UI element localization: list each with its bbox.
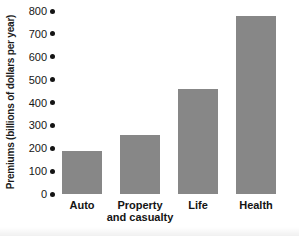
y-tick-label: 100: [29, 164, 47, 178]
bar-property: [120, 135, 160, 194]
y-tick-label: 600: [29, 50, 47, 64]
x-category-label-health: Health: [206, 200, 299, 212]
y-tick-dot-icon: [50, 31, 55, 36]
insurance-premiums-bar-chart: Premiums (billions of dollars per year) …: [0, 0, 299, 236]
y-tick-dot-icon: [50, 100, 55, 105]
y-tick-label: 0: [41, 187, 47, 201]
y-tick-label: 200: [29, 141, 47, 155]
bar-health: [236, 16, 276, 194]
y-tick-dot-icon: [50, 77, 55, 82]
y-tick-700: 700: [0, 27, 55, 41]
y-tick-800: 800: [0, 4, 55, 18]
y-tick-600: 600: [0, 50, 55, 64]
y-tick-label: 500: [29, 73, 47, 87]
bar-auto: [62, 151, 102, 194]
y-tick-0: 0: [0, 187, 55, 201]
y-tick-dot-icon: [50, 54, 55, 59]
y-tick-label: 300: [29, 118, 47, 132]
y-tick-dot-icon: [50, 9, 55, 14]
y-tick-300: 300: [0, 118, 55, 132]
y-tick-dot-icon: [50, 123, 55, 128]
y-tick-500: 500: [0, 73, 55, 87]
y-tick-dot-icon: [50, 146, 55, 151]
page-bottom-shade: [0, 227, 299, 236]
y-tick-label: 800: [29, 4, 47, 18]
y-tick-label: 400: [29, 96, 47, 110]
y-tick-200: 200: [0, 141, 55, 155]
y-tick-dot-icon: [50, 192, 55, 197]
y-tick-400: 400: [0, 96, 55, 110]
y-tick-label: 700: [29, 27, 47, 41]
y-tick-100: 100: [0, 164, 55, 178]
bar-life: [178, 89, 218, 194]
y-tick-dot-icon: [50, 169, 55, 174]
